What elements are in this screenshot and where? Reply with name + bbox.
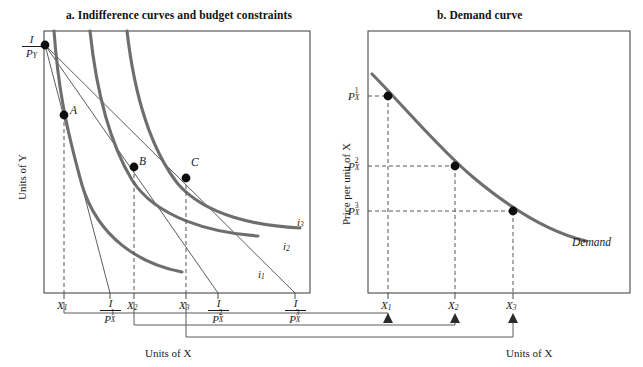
point-B-label: B	[139, 155, 146, 167]
arrow-x2	[450, 313, 460, 323]
arrow-x1	[383, 313, 393, 323]
indifference-curve-label-i2: i2	[283, 240, 290, 253]
indifference-curves	[54, 31, 300, 272]
budget-1-denominator: P1X	[100, 311, 121, 325]
indifference-curve-label-i3: i3	[297, 216, 304, 229]
panel-b-x-axis-label: Units of X	[506, 347, 552, 359]
panel-b-dashed-lines	[368, 96, 513, 293]
figure-canvas	[0, 0, 643, 367]
demand-point-1	[384, 92, 393, 101]
point-C-label: C	[191, 156, 199, 168]
panel-a-xtick-X2: X2	[127, 299, 137, 312]
demand-point-3	[509, 207, 518, 216]
budget-constraint-lines	[45, 45, 295, 293]
panel-a-xtick-X3: X3	[179, 299, 189, 312]
panel-a-xtick-X1: X1	[57, 299, 67, 312]
y-intercept-fraction-label: I PY	[22, 34, 41, 60]
figure-container: a. Indifference curves and budget constr…	[0, 0, 643, 367]
indifference-curve-i3	[127, 31, 300, 228]
connector-arrowheads	[383, 313, 518, 323]
budget-line-3	[45, 45, 295, 293]
demand-curve-label: Demand	[572, 236, 611, 248]
y-intercept-numerator: I	[22, 34, 41, 46]
panel-a-xtick-budget-1: I P1X	[100, 298, 121, 325]
demand-point-2	[451, 162, 460, 171]
indifference-curve-label-i1: i1	[258, 268, 265, 281]
panel-a-xtick-budget-2: I P2X	[208, 298, 229, 325]
panel-b-ytick-P1: P1X	[348, 89, 361, 102]
panel-a-dashed-lines	[64, 115, 186, 293]
point-A	[60, 111, 69, 120]
y-intercept-denominator: PY	[22, 47, 41, 60]
point-B	[130, 163, 139, 172]
panel-b-xtick-X2: X2	[448, 299, 458, 312]
indifference-curve-i2	[90, 31, 258, 236]
panel-b-ytick-P2: P2X	[348, 159, 361, 172]
arrow-x3	[508, 313, 518, 323]
panel-b-frame	[368, 31, 630, 293]
connector-x3	[186, 302, 513, 337]
demand-curve	[372, 74, 586, 241]
budget-2-denominator: P2X	[208, 311, 229, 325]
panel-a-x-axis-label: Units of X	[145, 347, 191, 359]
budget-3-denominator: P3X	[285, 311, 306, 325]
panel-a-xtick-budget-3: I P3X	[285, 298, 306, 325]
point-A-label: A	[70, 104, 77, 116]
panel-a-points	[41, 41, 191, 183]
panel-a-y-axis-label: Units of Y	[16, 154, 28, 200]
panel-a-frame	[44, 31, 310, 293]
point-income-y-intercept	[41, 41, 50, 50]
point-C	[182, 174, 191, 183]
panel-b-ytick-P3: P3X	[348, 204, 361, 217]
panel-b-xtick-X3: X3	[506, 299, 516, 312]
panel-b-xtick-X1: X1	[381, 299, 391, 312]
